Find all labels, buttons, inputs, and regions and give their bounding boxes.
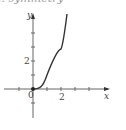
x-tick-label-2: 2 [59, 92, 65, 102]
y-axis-label: y [26, 10, 33, 20]
y-tick-label-2: 2 [24, 56, 30, 66]
chart: y x 0 2 2 [0, 0, 126, 130]
origin-label: 0 [28, 90, 34, 100]
x-axis-label: x [104, 91, 109, 101]
curve-line [33, 14, 67, 89]
